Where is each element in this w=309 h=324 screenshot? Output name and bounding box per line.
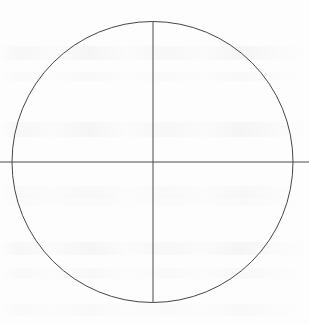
figure-canvas <box>0 0 309 324</box>
circle-quadrant-diagram <box>0 0 309 324</box>
